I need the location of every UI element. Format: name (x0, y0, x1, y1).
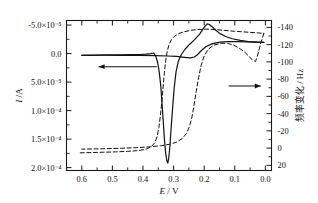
x-tick-label: 0.4 (138, 175, 149, 184)
y-right-tick-label: 0 (278, 144, 282, 153)
y-left-tick-label: -5.0×10⁻⁵ (28, 21, 61, 30)
y-left-tick-label: 1.5×10⁻⁴ (31, 135, 62, 144)
y-right-axis-title-symbol: 频率变化 (294, 86, 305, 122)
x-tick-label: 0.1 (230, 175, 240, 184)
y-right-tick-label: -140 (278, 23, 293, 32)
y-right-tick-label: -120 (278, 41, 293, 50)
cyclic-voltammetry-figure: 0.60.50.40.30.20.10.0 -5.0×10⁻⁵0.05.0×10… (0, 0, 318, 203)
y-right-axis-title-unit: / Hz (295, 69, 305, 86)
y-right-tick-label: -40 (278, 110, 289, 119)
y-left-tick-label: 1.0×10⁻⁴ (31, 107, 62, 116)
y-left-axis-title: I /A (14, 88, 24, 104)
y-right-tick-label: 20 (278, 161, 286, 170)
y-right-tick-label: -60 (278, 92, 289, 101)
y-right-axis-title: 频率变化 / Hz (294, 69, 305, 122)
y-right-tick-label: -100 (278, 58, 293, 67)
x-tick-label: 0.0 (260, 175, 270, 184)
x-tick-label: 0.3 (168, 175, 178, 184)
y-left-tick-label: 2.0×10⁻⁴ (31, 164, 62, 173)
y-right-tick-label: -80 (278, 75, 289, 84)
x-tick-label: 0.6 (77, 175, 87, 184)
x-tick-label: 0.2 (199, 175, 209, 184)
x-axis-title: E / V (158, 186, 179, 196)
x-tick-label: 0.5 (107, 175, 117, 184)
y-right-tick-label: -20 (278, 127, 289, 136)
y-left-axis-title-unit: /A (14, 88, 24, 100)
y-left-tick-label: 5.0×10⁻⁵ (31, 78, 62, 87)
x-axis-title-unit: / V (165, 186, 179, 196)
y-left-tick-label: 0.0 (51, 50, 61, 59)
